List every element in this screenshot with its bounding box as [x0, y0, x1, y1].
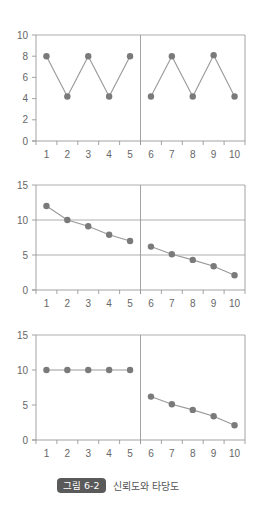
data-point-marker [106, 367, 112, 373]
y-tick-label: 6 [22, 72, 28, 83]
data-point-marker [231, 93, 237, 99]
y-tick-label: 15 [17, 330, 29, 341]
y-tick-label: 0 [22, 285, 28, 296]
x-tick-label: 5 [127, 448, 133, 459]
x-tick-label: 10 [229, 149, 241, 160]
y-tick-label: 10 [17, 365, 29, 376]
data-point-marker [85, 53, 91, 59]
y-tick-label: 8 [22, 51, 28, 62]
data-point-marker [127, 367, 133, 373]
x-tick-label: 10 [229, 448, 241, 459]
x-tick-label: 3 [85, 149, 91, 160]
y-tick-label: 4 [22, 93, 28, 104]
data-line [46, 56, 130, 96]
x-tick-label: 6 [148, 448, 154, 459]
data-point-marker [210, 52, 216, 58]
data-point-marker [231, 422, 237, 428]
data-point-marker [148, 243, 154, 249]
y-tick-label: 15 [17, 180, 29, 191]
x-tick-label: 8 [190, 448, 196, 459]
x-tick-label: 1 [44, 298, 50, 309]
data-point-marker [169, 401, 175, 407]
data-point-marker [106, 93, 112, 99]
y-tick-label: 2 [22, 114, 28, 125]
x-tick-label: 7 [169, 149, 175, 160]
x-tick-label: 9 [211, 448, 217, 459]
x-tick-label: 7 [169, 448, 175, 459]
chart-3-flat-then-declining: 05101512345678910 [17, 330, 245, 460]
data-point-marker [64, 367, 70, 373]
x-tick-label: 6 [148, 298, 154, 309]
data-point-marker [43, 367, 49, 373]
y-tick-label: 10 [17, 215, 29, 226]
x-tick-label: 2 [65, 149, 71, 160]
data-point-marker [210, 413, 216, 419]
data-point-marker [127, 238, 133, 244]
data-point-marker [106, 232, 112, 238]
x-tick-label: 8 [190, 298, 196, 309]
figure-number-badge: 그림 6-2 [57, 478, 106, 493]
x-tick-label: 1 [44, 149, 50, 160]
x-tick-label: 1 [44, 448, 50, 459]
x-tick-label: 9 [211, 149, 217, 160]
x-tick-label: 4 [106, 298, 112, 309]
x-tick-label: 3 [85, 448, 91, 459]
x-tick-label: 4 [106, 448, 112, 459]
x-tick-label: 3 [85, 298, 91, 309]
figure: 024681012345678910 05101512345678910 051… [0, 0, 261, 515]
data-point-marker [169, 53, 175, 59]
figure-title: 신뢰도와 타당도 [113, 478, 179, 493]
data-point-marker [85, 367, 91, 373]
data-point-marker [43, 203, 49, 209]
x-tick-label: 4 [106, 149, 112, 160]
data-point-marker [190, 257, 196, 263]
chart-2-declining-trend: 05101512345678910 [17, 180, 245, 310]
y-tick-label: 0 [22, 136, 28, 147]
data-point-marker [85, 223, 91, 229]
y-tick-label: 5 [22, 400, 28, 411]
figure-caption: 그림 6-2 신뢰도와 타당도 [57, 477, 179, 493]
data-point-marker [148, 93, 154, 99]
data-point-marker [231, 272, 237, 278]
y-tick-label: 5 [22, 250, 28, 261]
x-tick-label: 5 [127, 149, 133, 160]
data-point-marker [64, 217, 70, 223]
x-tick-label: 6 [148, 149, 154, 160]
x-tick-label: 9 [211, 298, 217, 309]
x-tick-label: 2 [65, 298, 71, 309]
data-point-marker [127, 53, 133, 59]
chart-1-consistent-zigzag: 024681012345678910 [17, 30, 245, 161]
data-point-marker [210, 263, 216, 269]
data-point-marker [190, 93, 196, 99]
x-tick-label: 7 [169, 298, 175, 309]
data-point-marker [43, 53, 49, 59]
data-point-marker [148, 393, 154, 399]
x-tick-label: 5 [127, 298, 133, 309]
x-tick-label: 8 [190, 149, 196, 160]
data-point-marker [190, 407, 196, 413]
data-point-marker [64, 93, 70, 99]
data-line [151, 55, 235, 96]
y-tick-label: 10 [17, 30, 29, 41]
x-tick-label: 10 [229, 298, 241, 309]
y-tick-label: 0 [22, 435, 28, 446]
x-tick-label: 2 [65, 448, 71, 459]
data-point-marker [169, 251, 175, 257]
